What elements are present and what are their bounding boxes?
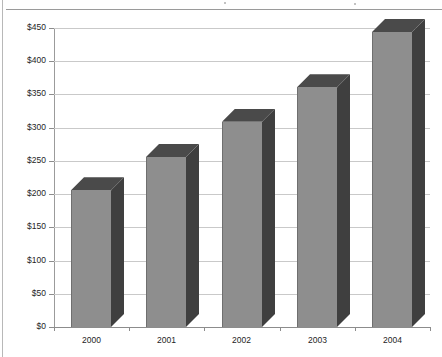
y-tick-label: $450: [0, 23, 46, 32]
x-axis-tick: [129, 327, 130, 331]
bar: [222, 109, 275, 327]
y-axis-line: [54, 28, 55, 328]
x-tick-label: 2001: [129, 335, 204, 345]
x-axis-tick: [54, 327, 55, 331]
bar-side-face: [186, 144, 199, 327]
top-horizontal-rule: [6, 9, 442, 10]
bar-front-face: [297, 87, 337, 327]
y-axis-tick: [49, 294, 54, 295]
y-tick-label: $150: [0, 222, 46, 231]
y-tick-label: $300: [0, 123, 46, 132]
left-border-rule: [2, 0, 3, 357]
x-axis-tick: [280, 327, 281, 331]
x-axis-tick: [430, 327, 431, 331]
x-axis-tick: [204, 327, 205, 331]
x-tick-label: 2000: [54, 335, 129, 345]
y-tick-label: $400: [0, 56, 46, 65]
bar-side-face: [111, 177, 124, 327]
x-tick-label: 2004: [355, 335, 430, 345]
bar-side-face: [412, 19, 425, 327]
plot-area: $0$50$100$150$200$250$300$350$400$450 20…: [54, 28, 430, 327]
y-tick-label: $250: [0, 156, 46, 165]
x-axis-line: [54, 327, 430, 328]
y-axis-tick: [49, 194, 54, 195]
x-axis-tick: [355, 327, 356, 331]
bar: [71, 177, 124, 327]
y-axis-tick: [49, 94, 54, 95]
y-tick-label: $50: [0, 289, 46, 298]
chart-screenshot: $0$50$100$150$200$250$300$350$400$450 20…: [0, 0, 442, 357]
y-tick-label: $200: [0, 189, 46, 198]
y-axis-tick: [49, 128, 54, 129]
bar-front-face: [222, 122, 262, 327]
artifact-speck: [224, 2, 226, 4]
y-axis-tick: [49, 161, 54, 162]
artifact-speck: [354, 3, 356, 5]
y-tick-label: $0: [0, 322, 46, 331]
y-axis-tick: [49, 28, 54, 29]
y-axis-tick: [49, 261, 54, 262]
y-axis-tick: [49, 61, 54, 62]
bar-front-face: [71, 190, 111, 327]
x-tick-label: 2002: [204, 335, 279, 345]
bar-side-face: [337, 74, 350, 327]
x-tick-label: 2003: [280, 335, 355, 345]
bar-front-face: [372, 32, 412, 327]
y-tick-label: $100: [0, 256, 46, 265]
bar: [297, 74, 350, 327]
bar: [372, 19, 425, 327]
y-tick-label: $350: [0, 89, 46, 98]
y-axis-tick: [49, 227, 54, 228]
bar-front-face: [146, 157, 186, 327]
bar-side-face: [262, 109, 275, 327]
bar: [146, 144, 199, 327]
